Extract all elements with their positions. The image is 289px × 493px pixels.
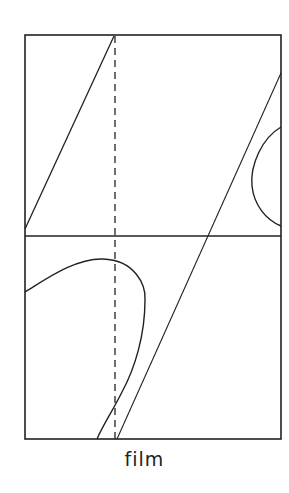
long-diagonal-line [117,73,281,439]
figure-caption: film [0,448,289,470]
upper-diagonal-line [25,36,114,229]
right-edge-loop [252,127,281,226]
diagram-frame [25,35,281,439]
film-diagram [0,0,289,493]
lower-loop-curve [25,259,145,439]
